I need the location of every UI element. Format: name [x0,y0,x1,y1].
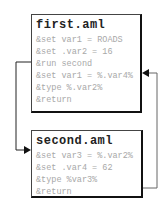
code-line: &return [36,94,136,106]
code-line: &set .var4 = 62 [36,162,137,174]
code-line: &set var3 = %.var2% [36,150,137,162]
code-line: &return [36,186,137,198]
code-line: &set var1 = ROADS [36,34,136,46]
arrow-right-icon [24,146,31,154]
code-line: &set var1 = %.var4% [36,70,136,82]
code-line: &set .var2 = 16 [36,46,136,58]
file-title: second.aml [36,134,137,148]
code-line: &type %.var2% [36,82,136,94]
code-line: &type %var3% [36,174,137,186]
file-box-first: first.aml &set var1 = ROADS &set .var2 =… [31,14,142,113]
file-box-second: second.aml &set var3 = %.var2% &set .var… [31,130,143,198]
file-title: first.aml [36,18,136,32]
code-line: &run second [36,58,136,70]
arrow-left-icon [142,69,149,77]
